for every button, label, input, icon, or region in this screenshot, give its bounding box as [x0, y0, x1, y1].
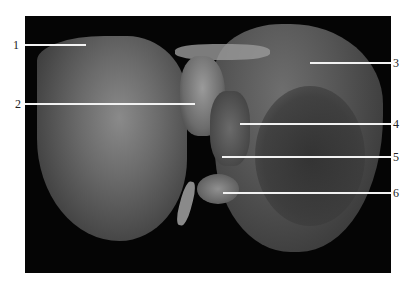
- liver-photograph: [25, 16, 391, 273]
- leader-line-3: [310, 62, 391, 64]
- label-6: 6: [393, 187, 399, 199]
- label-1: 1: [13, 39, 19, 51]
- right-lobe: [37, 36, 187, 241]
- leader-line-4: [240, 123, 391, 125]
- label-4: 4: [393, 118, 399, 130]
- leader-line-1: [25, 44, 86, 46]
- leader-line-5: [222, 156, 391, 158]
- label-3: 3: [393, 57, 399, 69]
- gallbladder: [197, 174, 239, 204]
- label-2: 2: [15, 98, 21, 110]
- leader-line-2: [25, 103, 195, 105]
- superior-tissue: [175, 44, 270, 60]
- porta-hepatis: [210, 91, 250, 166]
- label-5: 5: [393, 151, 399, 163]
- leader-line-6: [223, 192, 391, 194]
